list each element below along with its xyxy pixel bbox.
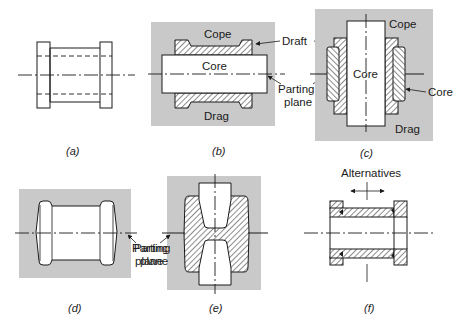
label-drag: Drag — [395, 123, 420, 135]
label-plane: plane — [284, 96, 312, 108]
label-core: Core — [202, 60, 227, 72]
caption-d: (d) — [68, 302, 82, 314]
flange-right-bottom — [394, 249, 407, 265]
label-parting: Parting — [134, 242, 170, 254]
caption-e: (e) — [209, 302, 223, 314]
tube-wall-top — [330, 208, 394, 217]
panel-c: Cope Core Drag Core (c) — [310, 9, 453, 159]
caption-b: (b) — [212, 145, 226, 157]
tube-wall-bottom — [330, 249, 394, 258]
label-draft: Draft — [282, 35, 308, 47]
label-side-core: Core — [428, 86, 453, 98]
caption-f: (f) — [364, 302, 375, 314]
casting-flange-right — [393, 47, 405, 101]
caption-a: (a) — [66, 145, 80, 157]
flange-right-top — [394, 201, 407, 217]
caption-c: (c) — [360, 147, 373, 159]
label-plane: plane — [140, 255, 168, 267]
label-core: Core — [353, 68, 378, 80]
panel-f: Alternatives (f) — [304, 167, 434, 314]
label-alternatives: Alternatives — [341, 167, 401, 179]
label-drag: Drag — [204, 110, 229, 122]
label-cope: Cope — [204, 28, 232, 40]
casting-flange-left — [327, 47, 339, 101]
label-cope: Cope — [389, 18, 417, 30]
panel-b: Cope Core Drag (b) — [148, 22, 285, 157]
panel-a: (a) — [18, 42, 135, 157]
label-parting: Parting — [278, 83, 314, 95]
panel-e: Parting plane (e) — [134, 174, 268, 314]
casting-design-figure: (a) Cope Core Drag (b) Draft Parting pla… — [0, 0, 465, 328]
